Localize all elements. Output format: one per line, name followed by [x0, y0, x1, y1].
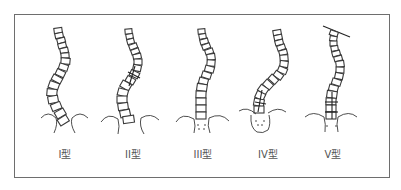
type-label-5: V型 [313, 146, 353, 161]
type-label-4: IV型 [248, 146, 288, 161]
spine-figure-type-5 [0, 0, 401, 190]
type-label-3: III型 [183, 146, 223, 161]
spine-vertebrae-type-5 [326, 30, 345, 119]
type-label-1: I型 [45, 146, 85, 161]
type-label-2: II型 [113, 146, 153, 161]
